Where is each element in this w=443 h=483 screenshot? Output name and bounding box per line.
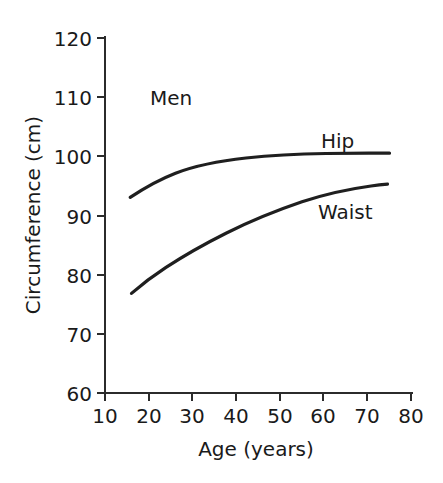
y-tick-label-80: 80	[67, 264, 92, 288]
x-tick-label-50: 50	[267, 404, 292, 428]
chart-figure: 120 110 100 90 80 70 60 10 20 30 40 50 6…	[0, 0, 443, 483]
annotation-hip: Hip	[321, 129, 354, 153]
x-tick-label-70: 70	[354, 404, 379, 428]
x-tick-label-40: 40	[223, 404, 248, 428]
y-tick-label-90: 90	[67, 205, 92, 229]
annotation-waist: Waist	[318, 200, 373, 224]
chart-canvas: 120 110 100 90 80 70 60 10 20 30 40 50 6…	[0, 0, 443, 483]
y-tick-marks	[97, 38, 105, 393]
y-tick-label-110: 110	[54, 86, 92, 110]
y-axis-title: Circumference (cm)	[21, 116, 45, 314]
x-axis-title: Age (years)	[198, 437, 314, 461]
x-tick-label-60: 60	[310, 404, 335, 428]
x-tick-label-30: 30	[179, 404, 204, 428]
y-tick-label-60: 60	[67, 382, 92, 406]
x-tick-label-20: 20	[136, 404, 161, 428]
x-tick-label-10: 10	[92, 404, 117, 428]
x-tick-marks	[105, 393, 411, 401]
y-tick-label-100: 100	[54, 145, 92, 169]
y-tick-labels: 120 110 100 90 80 70 60	[54, 27, 92, 406]
annotation-men: Men	[150, 86, 192, 110]
y-tick-label-120: 120	[54, 27, 92, 51]
x-tick-labels: 10 20 30 40 50 60 70 80	[92, 404, 423, 428]
x-tick-label-80: 80	[398, 404, 423, 428]
y-tick-label-70: 70	[67, 323, 92, 347]
